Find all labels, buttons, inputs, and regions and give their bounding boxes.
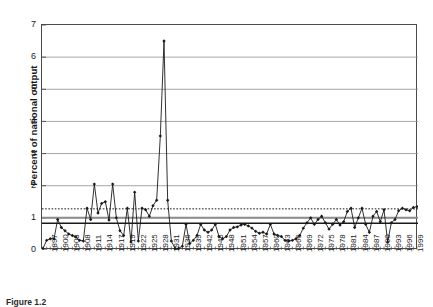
x-axis-tick-label: 1911 [95, 235, 103, 252]
x-axis-tick-label: 1978 [339, 234, 347, 252]
data-point-marker [162, 39, 165, 42]
data-point-marker [353, 226, 356, 229]
gridlines [42, 25, 418, 250]
x-axis-tick-label: 1960 [273, 234, 281, 252]
y-axis-tick-label: 5 [16, 83, 36, 93]
plot-area [41, 24, 417, 249]
data-point-marker [126, 207, 129, 210]
x-axis-tick-label: 1922 [140, 234, 148, 252]
x-axis-tick-label: 1963 [284, 234, 292, 252]
x-axis-tick-label: 1987 [373, 234, 381, 252]
data-point-marker [100, 202, 103, 205]
x-axis-tick-label: 1972 [317, 234, 325, 252]
data-point-marker [42, 247, 45, 250]
figure-caption: Figure 1.2 [6, 297, 46, 307]
y-axis-tick-label: 0 [16, 244, 36, 254]
y-axis-tick-label: 7 [16, 19, 36, 29]
x-axis-tick-label: 1981 [350, 234, 358, 252]
data-point-marker [360, 207, 363, 210]
x-axis-tick-label: 1908 [84, 234, 92, 252]
x-axis-tick-labels: 1897190019031908191119141917191919221925… [41, 252, 417, 298]
x-axis-tick-label: 1990 [384, 234, 392, 252]
data-point-marker [166, 198, 169, 201]
data-point-marker [45, 239, 48, 242]
data-point-marker [357, 216, 360, 219]
x-axis-tick-label: 1969 [306, 234, 314, 252]
figure-container: Percent of national output 01234567 1897… [0, 0, 433, 307]
x-axis-tick-label: 1919 [129, 234, 137, 252]
data-point-marker [111, 182, 114, 185]
y-axis-tick-label: 3 [16, 148, 36, 158]
data-point-marker [93, 182, 96, 185]
x-axis-tick-label: 1903 [73, 234, 81, 252]
x-axis-tick-label: 1966 [295, 234, 303, 252]
x-axis-tick-label: 1996 [406, 234, 414, 252]
data-point-marker [236, 225, 239, 228]
x-axis-tick-label: 1945 [217, 234, 225, 252]
data-point-marker [85, 207, 88, 210]
x-axis-tick-label: 1975 [328, 234, 336, 252]
x-axis-tick-label: 1900 [62, 234, 70, 252]
x-axis-tick-label: 1931 [173, 234, 181, 252]
x-axis-tick-label: 1917 [118, 234, 126, 252]
chart-svg [42, 25, 418, 250]
data-point-marker [115, 216, 118, 219]
x-axis-tick-label: 1948 [228, 234, 236, 252]
x-axis-tick-label: 1936 [184, 234, 192, 252]
data-point-marker [96, 211, 99, 214]
x-axis-tick-label: 1925 [151, 234, 159, 252]
data-point-marker [104, 200, 107, 203]
x-axis-tick-label: 1942 [206, 234, 214, 252]
y-axis-tick-label: 1 [16, 212, 36, 222]
data-point-marker [140, 207, 143, 210]
y-axis-tick-label: 6 [16, 51, 36, 61]
x-axis-tick-label: 1993 [395, 234, 403, 252]
y-axis-tick-label: 4 [16, 115, 36, 125]
x-axis-tick-label: 1928 [162, 234, 170, 252]
data-point-marker [159, 134, 162, 137]
x-axis-tick-label: 1954 [251, 234, 259, 252]
x-axis-tick-label: 1939 [195, 234, 203, 252]
y-axis-tick-label: 2 [16, 180, 36, 190]
x-axis-tick-label: 1914 [106, 234, 114, 252]
x-axis-tick-label: 1897 [51, 234, 59, 252]
x-axis-tick-label: 1951 [240, 234, 248, 252]
data-point-marker [107, 218, 110, 221]
x-axis-tick-label: 1957 [262, 234, 270, 252]
data-point-marker [415, 205, 418, 208]
x-axis-tick-label: 1999 [417, 234, 425, 252]
x-axis-tick-label: 1984 [362, 234, 370, 252]
data-point-marker [133, 190, 136, 193]
